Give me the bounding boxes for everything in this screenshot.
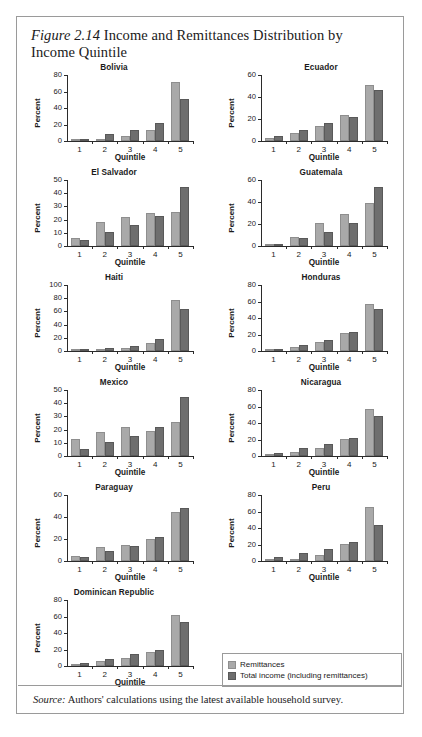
- x-axis-tick: [143, 141, 144, 144]
- y-axis-tick: [258, 119, 261, 120]
- y-axis-tick-label: 40: [54, 321, 62, 329]
- y-axis-line: [67, 495, 68, 561]
- y-axis-label: Percent: [227, 413, 236, 442]
- x-axis-tick: [92, 666, 93, 669]
- y-axis-tick: [64, 456, 67, 457]
- y-axis-line: [67, 180, 68, 246]
- bar-total-income: [324, 123, 333, 141]
- plot-area: 02040608012345: [261, 495, 387, 561]
- y-axis-label: Percent: [227, 98, 236, 127]
- bar-total-income: [105, 232, 114, 246]
- y-axis-line: [67, 600, 68, 666]
- bar-remittances: [96, 222, 105, 246]
- y-axis-label: Percent: [33, 98, 42, 127]
- bar-total-income: [80, 349, 89, 351]
- plot-area: 02040608012345: [261, 285, 387, 351]
- bar-remittances: [71, 349, 80, 351]
- bar-total-income: [274, 349, 283, 351]
- bar-remittances: [146, 431, 155, 456]
- x-axis-tick: [143, 561, 144, 564]
- y-axis-tick: [64, 298, 67, 299]
- y-axis-tick: [258, 246, 261, 247]
- chart-title: Haiti: [17, 273, 211, 282]
- bar-remittances: [121, 136, 130, 141]
- x-axis-tick: [117, 351, 118, 354]
- x-axis-line: [67, 141, 193, 142]
- x-axis-tick: [143, 456, 144, 459]
- bar-total-income: [374, 90, 383, 141]
- bar-remittances: [315, 448, 324, 456]
- plot-area: 02040608012345: [67, 75, 193, 141]
- bar-total-income: [130, 225, 139, 246]
- x-axis-label: Quintile: [261, 363, 387, 372]
- y-axis-tick-label: 0: [252, 137, 256, 145]
- bar-remittances: [146, 652, 155, 666]
- chart-panel-nicaragua: NicaraguaPercent02040608012345Quintile: [211, 378, 405, 483]
- y-axis-line: [67, 390, 68, 456]
- chart-panel-mexico: MexicoPercent0102030405012345Quintile: [17, 378, 211, 483]
- x-axis-tick: [387, 351, 388, 354]
- bar-remittances: [171, 82, 180, 141]
- y-axis-tick: [258, 561, 261, 562]
- y-axis-tick-label: 0: [58, 557, 62, 565]
- y-axis-tick: [64, 517, 67, 518]
- x-axis-tick: [387, 141, 388, 144]
- panel-row: HaitiPercent02040608010012345QuintileHon…: [17, 273, 405, 378]
- x-axis-tick: [362, 141, 363, 144]
- bar-remittances: [96, 661, 105, 666]
- source-divider: [18, 685, 402, 686]
- bar-remittances: [340, 214, 349, 246]
- x-axis-tick: [193, 666, 194, 669]
- y-axis-tick-label: 50: [54, 386, 62, 394]
- y-axis-tick-label: 60: [248, 298, 256, 306]
- x-axis-tick: [362, 561, 363, 564]
- y-axis-tick: [64, 403, 67, 404]
- bar-total-income: [155, 650, 164, 667]
- x-axis-tick: [387, 561, 388, 564]
- bar-remittances: [146, 343, 155, 351]
- y-axis-line: [67, 285, 68, 351]
- y-axis-tick-label: 0: [252, 452, 256, 460]
- y-axis-label: Percent: [227, 518, 236, 547]
- bar-remittances: [265, 349, 274, 351]
- bar-total-income: [130, 130, 139, 141]
- y-axis-label: Percent: [227, 203, 236, 232]
- y-axis-tick: [258, 75, 261, 76]
- x-axis-tick: [143, 246, 144, 249]
- bar-remittances: [290, 559, 299, 561]
- bar-remittances: [171, 300, 180, 351]
- panel-row: MexicoPercent0102030405012345QuintileNic…: [17, 378, 405, 483]
- y-axis-tick-label: 20: [54, 426, 62, 434]
- x-axis-tick: [117, 141, 118, 144]
- x-axis-tick: [143, 351, 144, 354]
- bar-remittances: [340, 115, 349, 141]
- bar-remittances: [71, 556, 80, 561]
- y-axis-line: [261, 75, 262, 141]
- bar-total-income: [80, 557, 89, 561]
- y-axis-tick: [64, 233, 67, 234]
- chart-title: Guatemala: [211, 168, 405, 177]
- x-axis-tick: [311, 141, 312, 144]
- y-axis-tick-label: 60: [54, 491, 62, 499]
- y-axis-tick-label: 40: [248, 93, 256, 101]
- y-axis-tick-label: 0: [58, 452, 62, 460]
- x-axis-tick: [337, 561, 338, 564]
- y-axis-tick: [64, 666, 67, 667]
- x-axis-tick: [387, 456, 388, 459]
- x-axis-tick: [168, 141, 169, 144]
- chart-title: Ecuador: [211, 63, 405, 72]
- bar-total-income: [349, 117, 358, 141]
- bar-total-income: [349, 438, 358, 456]
- panel-row: El SalvadorPercent0102030405012345Quinti…: [17, 168, 405, 273]
- chart-panel-el-salvador: El SalvadorPercent0102030405012345Quinti…: [17, 168, 211, 273]
- y-axis-tick: [258, 202, 261, 203]
- y-axis-tick-label: 80: [248, 491, 256, 499]
- x-axis-tick: [311, 351, 312, 354]
- y-axis-tick-label: 40: [54, 399, 62, 407]
- bar-remittances: [96, 432, 105, 456]
- chart-panel-paraguay: ParaguayPercent020406012345Quintile: [17, 483, 211, 588]
- bar-total-income: [180, 187, 189, 246]
- legend-label: Total income (including remittances): [240, 671, 368, 680]
- y-axis-tick: [64, 125, 67, 126]
- x-axis-line: [261, 141, 387, 142]
